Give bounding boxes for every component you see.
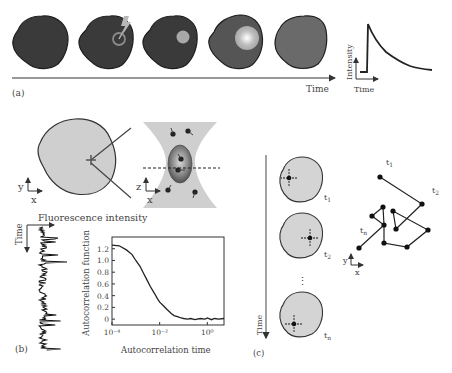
fluorescence-trace (39, 227, 67, 350)
acf-xtick-label: 10⁻⁴ (104, 328, 121, 337)
traj-axis-x: x (355, 268, 360, 277)
spt-frame-2: t2 (280, 213, 331, 260)
acf-ytick-label: 0.2 (97, 303, 109, 312)
traj-axis-y: y (342, 256, 348, 265)
focal-axis-z: z (136, 181, 141, 192)
traj-second-label: t2 (432, 186, 439, 196)
frap-cell-1 (13, 16, 68, 69)
acf-ytick-label: 0.8 (97, 268, 109, 277)
inset-xlabel: Time (354, 85, 374, 94)
panel-a: Time (a) Intensity Time (12, 15, 432, 98)
frap-inset-plot: Intensity Time (345, 24, 432, 94)
frame-2-label: t2 (324, 250, 331, 260)
trajectory: t1 t2 tn (356, 158, 439, 251)
acf-ytick-label: 0 (104, 315, 109, 324)
acf-ytick-label: 0.4 (97, 292, 109, 301)
traj-start-label: t1 (386, 158, 393, 168)
acf-series-line (112, 245, 224, 320)
focal-axis-x: x (147, 194, 153, 205)
figure-canvas: Time (a) Intensity Time y x (0, 0, 452, 373)
acf-xtick-label: 10⁰ (201, 328, 214, 337)
spt-frame-1: t1 (280, 157, 331, 203)
panel-a-label: (a) (12, 88, 24, 98)
focal-volume (168, 145, 192, 183)
frap-cell-5 (275, 16, 327, 69)
acf-xlabel: Autocorrelation time (120, 345, 211, 355)
cell-axis-x: x (31, 194, 37, 205)
inset-ylabel: Intensity (345, 44, 354, 80)
cell-axes: y x (17, 178, 42, 205)
panel-c-time-label: Time (255, 315, 264, 335)
acf-ylabel: Autocorrelation function (81, 229, 91, 337)
fcs-cell (38, 119, 116, 195)
trace-time-label: Time (14, 224, 24, 245)
acf-ytick-label: 1.2 (97, 245, 109, 254)
trace-title: Fluorescence intensity (38, 212, 148, 223)
acf-ytick-label: 0.6 (97, 280, 109, 289)
frap-cell-4 (209, 15, 263, 69)
trajectory-axes: y x (342, 254, 363, 277)
panel-c: Time (c) t1 t2 ⋮ tn (253, 155, 439, 358)
cell-axis-y: y (17, 181, 24, 192)
traj-end-label: tn (360, 226, 367, 236)
acf-chart: 00.20.40.60.81.01.2 10⁻⁴10⁻²10⁰ Autocorr… (81, 229, 224, 355)
spt-frame-n: tn (280, 292, 331, 341)
recovering-spot (235, 26, 259, 50)
acf-ytick-label: 1.0 (97, 256, 109, 265)
frap-cell-3 (143, 16, 197, 69)
frap-cell-2 (79, 16, 133, 69)
panel-c-label: (c) (253, 348, 264, 358)
acf-xtick-label: 10⁻² (151, 328, 168, 337)
acf-plot-frame (112, 237, 224, 325)
panel-b: y x z x Fluorescence intensity Time (14, 119, 224, 355)
frame-n-label: tn (324, 331, 331, 341)
frame-1-label: t1 (324, 193, 331, 203)
frap-recovery-curve (360, 24, 432, 72)
panel-b-label: (b) (15, 344, 28, 354)
time-axis-label: Time (306, 84, 329, 94)
bleached-spot (177, 31, 190, 44)
frames-ellipsis: ⋮ (297, 275, 308, 288)
